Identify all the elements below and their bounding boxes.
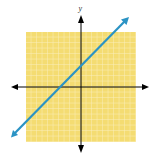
y-axis-label: y	[78, 4, 83, 13]
coordinate-plane: y	[0, 0, 155, 155]
